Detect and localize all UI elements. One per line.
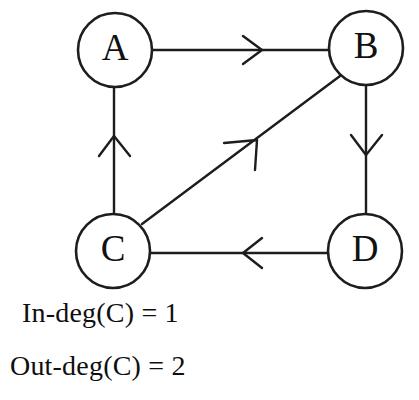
node-d[interactable]: D — [328, 214, 402, 288]
edge-b-to-d — [351, 85, 382, 215]
edge-d-to-c — [150, 238, 328, 268]
node-label-a: A — [102, 27, 129, 68]
edge-a-to-b — [152, 36, 329, 64]
in-degree-caption: In-deg(C) = 1 — [22, 297, 179, 328]
edge-c-to-a — [99, 87, 130, 215]
directed-graph-canvas: A B C D In-deg(C) = 1 Out-deg(C) = 2 — [0, 0, 419, 400]
out-degree-caption: Out-deg(C) = 2 — [10, 350, 186, 381]
edge-line-c-to-b — [142, 76, 340, 224]
node-c[interactable]: C — [76, 214, 150, 288]
node-a[interactable]: A — [78, 13, 152, 87]
edge-c-to-b — [142, 76, 340, 224]
node-label-d: D — [352, 228, 379, 269]
graph-figure: A B C D In-deg(C) = 1 Out-deg(C) = 2 — [0, 0, 419, 400]
node-b[interactable]: B — [329, 11, 403, 85]
node-label-b: B — [354, 25, 379, 66]
arrowhead-c-to-b — [224, 140, 257, 170]
node-label-c: C — [101, 228, 126, 269]
